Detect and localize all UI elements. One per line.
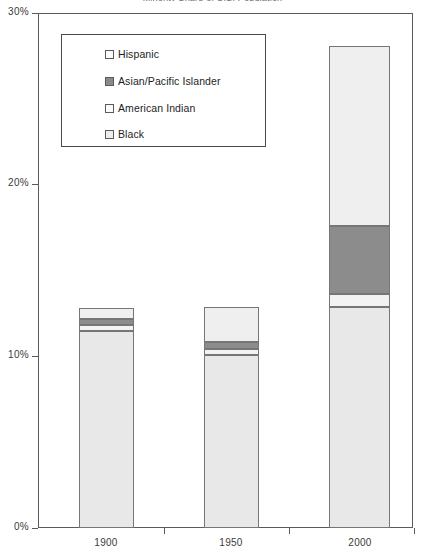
bar-segment-hispanic[interactable] bbox=[79, 308, 134, 319]
bar-segment-black[interactable] bbox=[79, 331, 134, 528]
y-axis-tick-20: 20% bbox=[0, 184, 38, 185]
y-tick-mark bbox=[32, 356, 38, 357]
legend-swatch-american-indian bbox=[105, 104, 114, 113]
bar-1900[interactable] bbox=[79, 308, 134, 528]
legend-item-american-indian[interactable]: American Indian bbox=[105, 101, 195, 115]
bar-segment-hispanic[interactable] bbox=[329, 46, 390, 226]
bar-segment-black[interactable] bbox=[329, 307, 390, 528]
bar-segment-black[interactable] bbox=[204, 355, 259, 528]
x-axis-label-1900: 1900 bbox=[76, 537, 136, 548]
x-tick-mark bbox=[289, 528, 290, 534]
y-tick-mark bbox=[32, 13, 38, 14]
y-axis-label-10: 10% bbox=[8, 349, 29, 360]
x-tick-mark bbox=[164, 528, 165, 534]
y-tick-mark bbox=[32, 184, 38, 185]
bar-segment-hispanic[interactable] bbox=[204, 307, 259, 342]
legend-label-black: Black bbox=[118, 128, 144, 140]
legend: Hispanic Asian/Pacific Islander American… bbox=[61, 34, 266, 147]
legend-item-hispanic[interactable]: Hispanic bbox=[105, 47, 159, 61]
y-axis-label-20: 20% bbox=[8, 177, 29, 188]
chart-title: Minority Share of U.S. Population bbox=[0, 0, 425, 1]
bar-segment-asian-pacific-islander[interactable] bbox=[329, 226, 390, 294]
legend-item-black[interactable]: Black bbox=[105, 127, 144, 141]
bar-segment-american-indian[interactable] bbox=[329, 294, 390, 307]
legend-label-hispanic: Hispanic bbox=[118, 48, 159, 60]
y-axis-label-0: 0% bbox=[14, 521, 29, 532]
bar-1950[interactable] bbox=[204, 307, 259, 528]
y-axis-tick-30: 30% bbox=[0, 13, 38, 14]
x-axis-label-2000: 2000 bbox=[330, 537, 390, 548]
x-tick-mark bbox=[414, 528, 415, 534]
stacked-bar-chart: Minority Share of U.S. Population 30% 20… bbox=[0, 0, 425, 558]
bar-segment-american-indian[interactable] bbox=[204, 349, 259, 354]
y-axis-tick-0: 0% bbox=[0, 528, 38, 529]
bar-segment-asian-pacific-islander[interactable] bbox=[79, 319, 134, 324]
bar-segment-american-indian[interactable] bbox=[79, 325, 134, 331]
bar-2000[interactable] bbox=[329, 46, 390, 528]
bar-segment-asian-pacific-islander[interactable] bbox=[204, 342, 259, 350]
legend-swatch-black bbox=[105, 130, 114, 139]
x-axis-label-1950: 1950 bbox=[201, 537, 261, 548]
legend-swatch-asian-pacific-islander bbox=[105, 77, 114, 86]
y-axis-tick-10: 10% bbox=[0, 356, 38, 357]
legend-swatch-hispanic bbox=[105, 50, 114, 59]
legend-item-asian-pacific-islander[interactable]: Asian/Pacific Islander bbox=[105, 74, 221, 88]
legend-label-asian-pacific-islander: Asian/Pacific Islander bbox=[118, 75, 221, 87]
legend-label-american-indian: American Indian bbox=[118, 102, 195, 114]
y-axis-label-30: 30% bbox=[8, 6, 29, 17]
y-tick-mark bbox=[32, 528, 38, 529]
